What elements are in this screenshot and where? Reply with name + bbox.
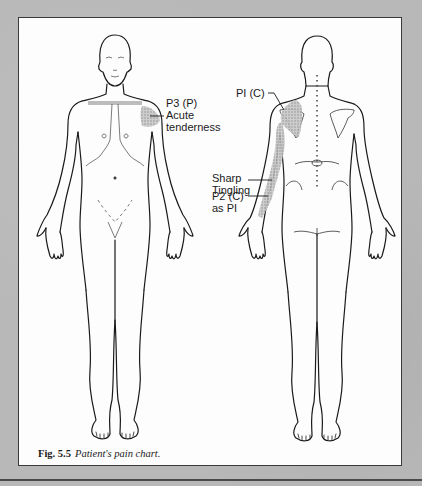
front-body-details bbox=[86, 57, 144, 238]
back-body-details bbox=[280, 75, 354, 236]
p2-description: as PI bbox=[212, 202, 244, 214]
p1-label: PI (C) bbox=[236, 87, 265, 99]
p3-code: P3 (P) bbox=[166, 97, 220, 109]
p3-description: tenderness bbox=[166, 121, 220, 133]
p2-pain-area bbox=[258, 122, 285, 218]
p3-quality: Acute bbox=[166, 109, 220, 121]
p1-code: PI (C) bbox=[236, 87, 265, 99]
sharp-quality: Sharp bbox=[212, 172, 250, 184]
figure-number: Fig. 5.5 bbox=[38, 448, 71, 459]
p2-code: P2 (C) bbox=[212, 190, 244, 202]
front-body-figure bbox=[37, 35, 193, 439]
body-diagram bbox=[0, 0, 422, 486]
figure-caption: Fig. 5.5Patient's pain chart. bbox=[38, 448, 160, 459]
p3-label: P3 (P) Acute tenderness bbox=[166, 97, 220, 133]
figure-caption-text: Patient's pain chart. bbox=[75, 448, 160, 459]
p2-label: P2 (C) as PI bbox=[212, 190, 244, 214]
